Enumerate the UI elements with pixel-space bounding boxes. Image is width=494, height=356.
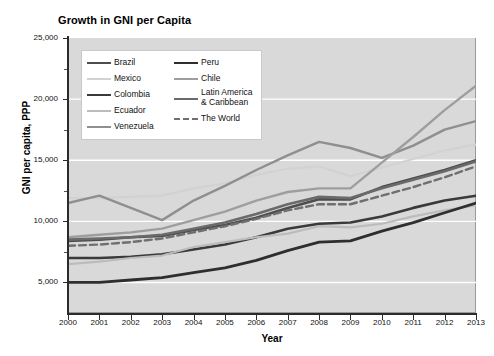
legend-swatch-wrap [87, 55, 114, 71]
y-axis-minor-tick [64, 191, 67, 192]
y-axis-tick-mark [63, 38, 68, 39]
legend-swatch-wrap [174, 71, 201, 87]
legend-label: Venezuela [114, 119, 154, 132]
legend-label: Latin America & Caribbean [201, 87, 253, 107]
x-axis-tick-mark [256, 315, 257, 320]
legend-entry[interactable]: Peru [174, 55, 262, 71]
y-axis-line [67, 36, 69, 315]
y-axis-tick-mark [63, 160, 68, 161]
legend-entry[interactable]: Chile [174, 71, 262, 87]
legend-entry[interactable]: Brazil [87, 55, 175, 71]
legend-column-left: BrazilMexicoColombiaEcuadorVenezuela [87, 55, 175, 135]
x-axis-tick-mark [476, 315, 477, 320]
x-axis-tick-mark [382, 315, 383, 320]
x-axis-tick-mark [413, 315, 414, 320]
legend-label: The World [201, 111, 240, 124]
legend-column-right: PeruChileLatin America & CaribbeanThe Wo… [174, 55, 262, 127]
x-axis-tick-mark [319, 315, 320, 320]
y-axis-minor-tick [64, 69, 67, 70]
x-axis-tick-mark [162, 315, 163, 320]
y-axis-tick-label: 5,000 [0, 277, 58, 286]
x-axis-tick-mark [350, 315, 351, 320]
chart-title: Growth in GNI per Capita [58, 14, 191, 26]
x-axis-title: Year [68, 333, 476, 344]
y-axis-tick-mark [63, 221, 68, 222]
legend-color-swatch [87, 62, 111, 65]
x-axis-line [67, 313, 477, 315]
legend-label: Peru [201, 55, 219, 68]
legend-entry[interactable]: Venezuela [87, 119, 175, 135]
legend-entry[interactable]: Ecuador [87, 103, 175, 119]
y-axis-title: GNI per capita, PPP [21, 78, 32, 218]
legend-swatch-wrap [174, 111, 201, 127]
legend-color-swatch [87, 110, 111, 113]
legend-color-swatch [174, 98, 198, 101]
y-axis-tick-label: 10,000 [0, 216, 58, 225]
y-axis-minor-tick [64, 130, 67, 131]
legend-swatch-wrap [87, 87, 114, 103]
y-axis-tick-mark [63, 99, 68, 100]
legend-color-swatch [87, 78, 111, 81]
x-axis-tick-mark [194, 315, 195, 320]
legend-color-swatch [174, 62, 198, 65]
x-axis-tick-mark [68, 315, 69, 320]
x-axis-tick-mark [225, 315, 226, 320]
x-axis-tick-mark [99, 315, 100, 320]
legend-entry[interactable]: Mexico [87, 71, 175, 87]
x-axis-tick-mark [131, 315, 132, 320]
legend-color-swatch [87, 126, 111, 129]
legend-color-swatch [174, 78, 198, 81]
legend-label: Colombia [114, 87, 150, 100]
legend-entry[interactable]: The World [174, 111, 262, 127]
legend-swatch-wrap [87, 119, 114, 135]
legend-swatch-wrap [174, 87, 201, 111]
y-axis-tick-label: 25,000 [0, 33, 58, 42]
x-axis-tick-mark [445, 315, 446, 320]
series-line-mexico [68, 144, 476, 198]
y-axis-minor-tick [64, 252, 67, 253]
legend-label: Chile [201, 71, 220, 84]
x-axis-tick-mark [288, 315, 289, 320]
legend-color-swatch [87, 94, 111, 97]
series-line-colombia [68, 196, 476, 258]
y-axis-tick-mark [63, 282, 68, 283]
chart-legend: BrazilMexicoColombiaEcuadorVenezuela Per… [81, 50, 262, 140]
chart-figure: Growth in GNI per Capita 5,00010,00015,0… [0, 0, 494, 356]
legend-label: Brazil [114, 55, 135, 68]
series-line-latin-america-caribbean [68, 161, 476, 239]
legend-swatch-wrap [87, 103, 114, 119]
legend-label: Mexico [114, 71, 141, 84]
legend-label: Ecuador [114, 103, 146, 116]
legend-entry[interactable]: Latin America & Caribbean [174, 87, 262, 111]
legend-swatch-wrap [87, 71, 114, 87]
legend-color-swatch [174, 118, 198, 120]
x-axis-tick-label: 2013 [456, 318, 494, 327]
legend-entry[interactable]: Colombia [87, 87, 175, 103]
legend-swatch-wrap [174, 55, 201, 71]
